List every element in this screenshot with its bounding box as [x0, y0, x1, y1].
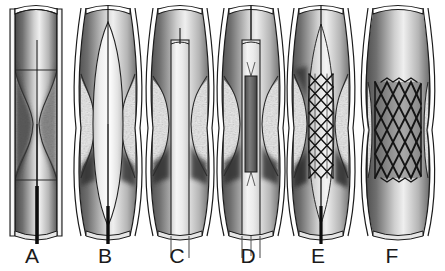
- stent-deployment-figure: A B C D E F: [0, 0, 445, 271]
- panel-label-e: E: [306, 245, 330, 266]
- panel-label-f: F: [380, 245, 404, 266]
- panel-label-c: C: [165, 245, 189, 266]
- panel-label-d: D: [236, 245, 260, 266]
- delivery-sheath-c: [171, 40, 189, 256]
- panel-f-stent-fully-deployed: [361, 6, 434, 241]
- crimped-stent-d: [245, 76, 257, 172]
- vessel-wall-right-a: [57, 9, 62, 236]
- panel-label-b: B: [93, 245, 117, 266]
- panel-c-sheath-advance: [146, 6, 214, 259]
- panel-label-a: A: [20, 245, 44, 266]
- panel-a-artery: [10, 6, 62, 245]
- vessel-wall-left-a: [10, 9, 15, 236]
- panel-d-crimped-stent: [217, 6, 285, 259]
- figure-canvas: [0, 0, 445, 271]
- panel-b-balloon-inflation: [74, 6, 142, 245]
- panel-e-stent-partially-expanded: [287, 6, 355, 245]
